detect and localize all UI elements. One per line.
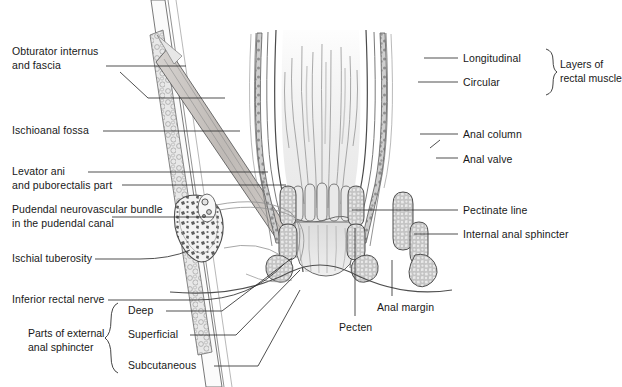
label-anal-margin: Anal margin [377,301,434,315]
label-parts-of-external-anal-sphincter: Parts of external anal sphincter [28,327,104,354]
label-pecten: Pecten [339,321,372,335]
label-deep: Deep [128,304,154,318]
label-ischial-tuberosity: Ischial tuberosity [12,252,92,266]
pudendal-canal [198,194,216,222]
label-layers-of-rectal-muscle: Layers of rectal muscle [560,58,622,85]
label-circular: Circular [463,76,500,90]
label-pectinate-line: Pectinate line [463,204,527,218]
anal-columns [293,183,351,221]
label-ischioanal-fossa: Ischioanal fossa [12,124,89,138]
label-anal-valve: Anal valve [463,153,512,167]
label-inferior-rectal-nerve: Inferior rectal nerve [12,293,105,307]
rectum-and-anal-canal [250,30,393,276]
label-levator-ani: Levator ani and puborectalis part [12,165,112,192]
label-anal-column: Anal column [463,128,522,142]
label-obturator-internus: Obturator internus and fascia [12,45,98,72]
brace-layers-rectal-muscle [544,48,558,96]
label-pudendal-bundle: Pudendal neurovascular bundle in the pud… [12,203,163,230]
label-longitudinal: Longitudinal [463,52,521,66]
label-subcutaneous: Subcutaneous [128,359,196,373]
label-internal-anal-sphincter: Internal anal sphincter [463,228,569,242]
label-superficial: Superficial [128,328,178,342]
brace-parts-external-anal-sphincter [104,302,120,374]
